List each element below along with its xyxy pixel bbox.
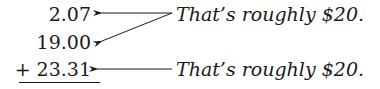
- annotation-note-2: That’s roughly $20.: [176, 58, 364, 80]
- arrow-icon: [102, 13, 172, 41]
- annotation-note-1: That’s roughly $20.: [176, 3, 364, 25]
